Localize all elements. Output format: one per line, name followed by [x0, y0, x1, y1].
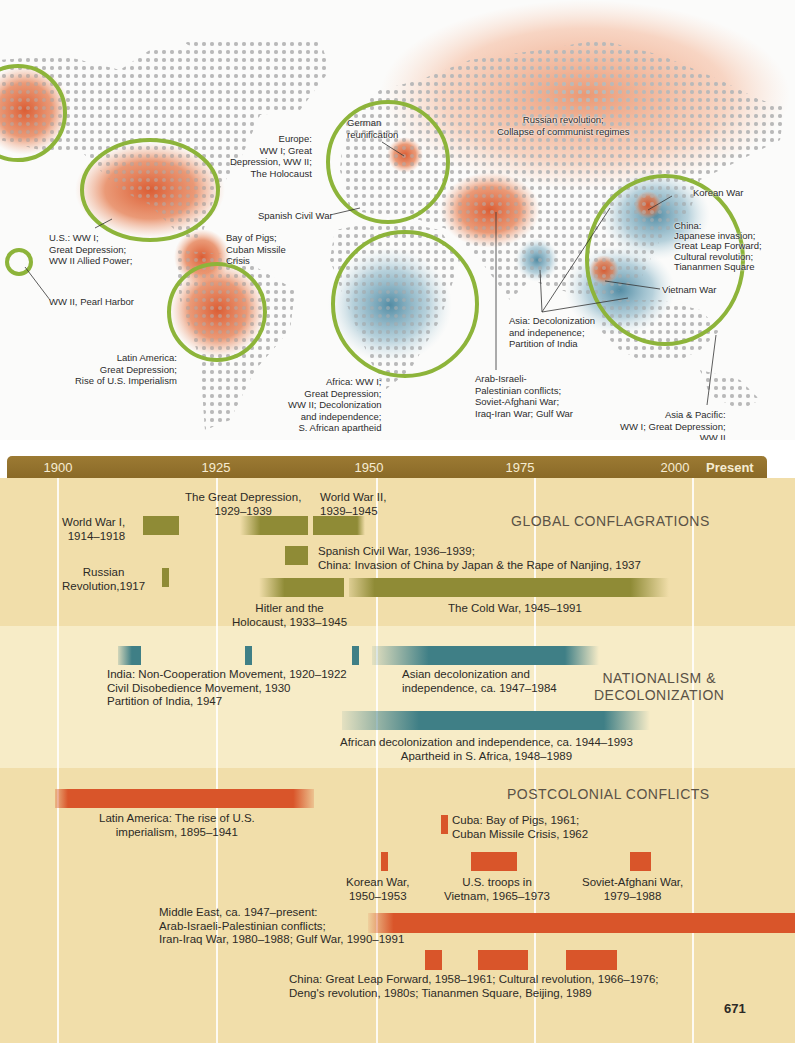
bar-asian-decolonization — [372, 646, 599, 665]
map-label-spanish-civil-war: Spanish Civil War — [258, 210, 333, 222]
label-great-depression: The Great Depression, 1929–1939 — [185, 491, 301, 518]
bar-middle-east — [368, 913, 795, 933]
bar-great-depression — [240, 516, 308, 535]
section-title-postcolonial: POSTCOLONIAL CONFLICTS — [507, 786, 710, 803]
label-ww1: World War I, 1914–1918 — [62, 516, 125, 543]
label-korean-war: Korean War, 1950–1953 — [346, 876, 410, 903]
timeline: GLOBAL CONFLAGRATIONS NATIONALISM & DECO… — [0, 478, 795, 1043]
label-cold-war: The Cold War, 1945–1991 — [448, 602, 582, 616]
bar-china-deng — [566, 950, 617, 970]
bar-korean-war — [381, 852, 388, 871]
axis-tick-1925: 1925 — [202, 460, 231, 475]
bar-cold-war — [349, 578, 669, 597]
label-india: India: Non-Cooperation Movement, 1920–19… — [107, 668, 347, 709]
map-label-pearl-harbor: WW II, Pearl Harbor — [49, 296, 134, 308]
map-label-us: U.S.: WW I; Great Depression; WW II Alli… — [49, 232, 132, 267]
label-spanish-china: Spanish Civil War, 1936–1939; China: Inv… — [318, 545, 641, 572]
bar-african-decolonization — [342, 711, 650, 730]
label-ww2: World War II, 1939–1945 — [320, 491, 386, 518]
axis-tick-2000: 2000 — [661, 460, 690, 475]
axis-tick-1900: 1900 — [44, 460, 73, 475]
bar-ww2 — [313, 516, 365, 535]
bar-vietnam — [471, 852, 517, 871]
label-latin-america: Latin America: The rise of U.S. imperial… — [99, 812, 255, 839]
bar-ww1 — [143, 516, 179, 535]
label-soviet-afghan: Soviet-Afghani War, 1979–1988 — [582, 876, 683, 903]
label-middle-east: Middle East, ca. 1947–present: Arab-Isra… — [159, 906, 404, 947]
map-label-china: China: Japanese invasion; Great Leap For… — [674, 221, 762, 272]
gridline-1925 — [216, 478, 218, 1043]
section-title-nationalism: NATIONALISM & DECOLONIZATION — [594, 670, 724, 704]
bar-china-cultural-revolution — [478, 950, 528, 970]
map-label-russia: Russian revolution; Collapse of communis… — [497, 114, 630, 137]
bar-civil-disobedience — [245, 646, 252, 665]
label-cuba: Cuba: Bay of Pigs, 1961; Cuban Missile C… — [452, 814, 588, 841]
map-label-latin-america: Latin America: Great Depression; Rise of… — [75, 352, 177, 387]
map-label-korean-war: Korean War — [693, 187, 743, 199]
map-label-bay-of-pigs: Bay of Pigs; Cuban Missile Crisis — [226, 232, 286, 267]
bar-russian-revolution — [162, 568, 169, 587]
bar-cuba — [441, 815, 448, 834]
label-russian-revolution: Russian Revolution,1917 — [62, 566, 145, 593]
map-label-africa: Africa: WW I; Great Depression; WW II; D… — [288, 376, 381, 434]
map-label-asia-decolonization: Asia: Decolonization and indepenence; Pa… — [509, 315, 595, 350]
map-label-europe: Europe: WW I; Great Depression, WW II; T… — [230, 133, 312, 179]
map-label-arab-israeli: Arab-Israeli- Palestinian conflicts; Sov… — [475, 373, 573, 419]
gridline-2000 — [692, 478, 694, 1043]
label-china: China: Great Leap Forward, 1958–1961; Cu… — [289, 973, 659, 1000]
world-map: U.S.: WW I; Great Depression; WW II Alli… — [0, 0, 795, 440]
bar-latin-america — [55, 789, 314, 808]
label-holocaust: Hitler and the Holocaust, 1933–1945 — [232, 602, 347, 629]
bar-partition-india — [352, 646, 359, 665]
bar-spanish-civil-war — [285, 546, 308, 565]
label-asian-decolonization: Asian decolonization and independence, c… — [402, 668, 557, 695]
timeline-axis: 1900 1925 1950 1975 2000 Present — [7, 456, 767, 478]
map-label-german-reunification: German reunification — [347, 117, 398, 140]
bar-soviet-afghan — [630, 852, 651, 871]
map-label-vietnam-war: Vietnam War — [662, 284, 716, 296]
label-african-decolonization: African decolonization and independence,… — [340, 736, 633, 763]
bar-holocaust — [259, 578, 344, 597]
bar-china-great-leap — [425, 950, 442, 970]
page-number: 671 — [724, 1001, 746, 1016]
bar-india-non-cooperation — [118, 646, 141, 665]
map-label-asia-pacific: Asia & Pacific: WW I; Great Depression; … — [620, 409, 726, 440]
axis-tick-1975: 1975 — [506, 460, 535, 475]
axis-tick-1950: 1950 — [355, 460, 384, 475]
gridline-1900 — [57, 478, 59, 1043]
axis-tick-present: Present — [706, 460, 754, 475]
section-title-global: GLOBAL CONFLAGRATIONS — [511, 513, 710, 530]
label-vietnam: U.S. troops in Vietnam, 1965–1973 — [444, 876, 550, 903]
